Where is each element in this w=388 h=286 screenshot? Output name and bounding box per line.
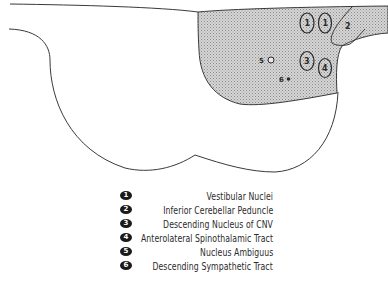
marker-2-label: 2 <box>345 22 351 31</box>
marker-5-label: 5 <box>259 57 264 65</box>
number-badge-3: 3 <box>120 219 132 228</box>
number-badge-6: 6 <box>120 261 132 270</box>
marker-6-label: 6 <box>279 76 284 84</box>
legend-label: Anterolateral Spinothalamic Tract <box>141 232 273 244</box>
legend-label: Descending Sympathetic Tract <box>153 260 273 272</box>
legend-item: 4 Anterolateral Spinothalamic Tract <box>120 231 273 245</box>
legend-label: Nucleus Ambiguus <box>200 246 273 258</box>
legend-item: 3 Descending Nucleus of CNV <box>120 217 273 231</box>
legend-item: 1 Vestibular Nuclei <box>120 189 273 203</box>
legend-label: Inferior Cerebellar Peduncle <box>163 204 273 216</box>
legend-item: 5 Nucleus Ambiguus <box>120 245 273 259</box>
marker-1b-label: 1 <box>323 19 329 28</box>
legend-item: 6 Descending Sympathetic Tract <box>120 259 273 273</box>
legend-label: Vestibular Nuclei <box>207 190 273 202</box>
shaded-lesion-region <box>198 6 388 105</box>
marker-5-nucleus-ambiguus <box>268 57 274 63</box>
marker-4-label: 4 <box>322 64 328 73</box>
marker-3-label: 3 <box>304 57 310 66</box>
number-badge-5: 5 <box>120 247 132 256</box>
legend-item: 2 Inferior Cerebellar Peduncle <box>120 203 273 217</box>
marker-1a-label: 1 <box>305 19 311 28</box>
number-badge-1: 1 <box>120 191 132 200</box>
number-badge-4: 4 <box>120 233 132 242</box>
brainstem-diagram: 2 1 1 3 4 5 6 <box>0 0 388 190</box>
dorsal-outline <box>10 4 198 12</box>
marker-6-sympathetic-tract <box>287 77 291 81</box>
legend-label: Descending Nucleus of CNV <box>163 218 273 230</box>
number-badge-2: 2 <box>120 205 132 214</box>
